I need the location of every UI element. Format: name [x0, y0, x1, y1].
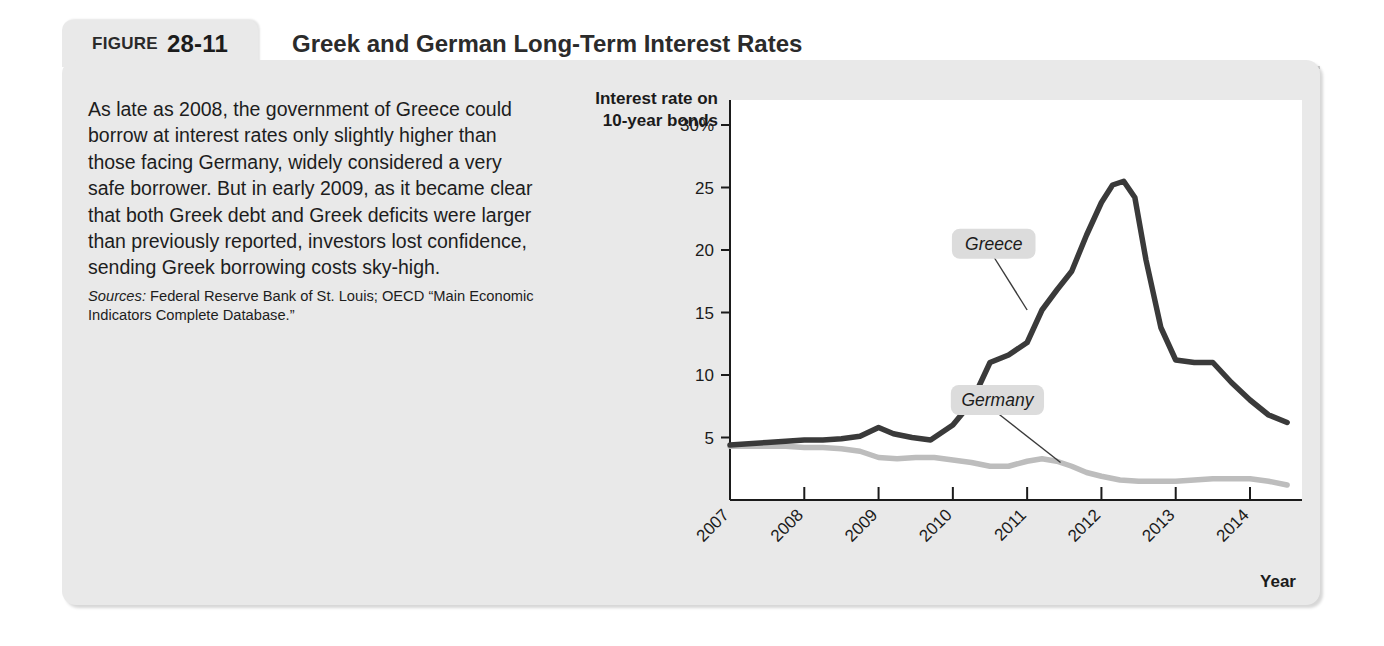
y-axis-tick-label: 20: [695, 241, 714, 260]
x-axis-tick-label: 2007: [693, 505, 733, 545]
description-paragraph: As late as 2008, the government of Greec…: [88, 96, 540, 281]
line-chart: 30%2520151052007200820092010201120122013…: [540, 88, 1320, 598]
sources-note: Sources: Federal Reserve Bank of St. Lou…: [88, 287, 540, 326]
sources-text: Federal Reserve Bank of St. Louis; OECD …: [88, 288, 534, 324]
chart-container: Interest rate on10-year bonds 30%2520151…: [540, 88, 1320, 598]
x-axis-tick-label: 2013: [1138, 505, 1178, 545]
sources-label: Sources:: [88, 288, 146, 304]
figure-number: 28-11: [167, 30, 228, 58]
x-axis-label: Year: [1260, 572, 1296, 592]
description-column: As late as 2008, the government of Greec…: [88, 96, 540, 326]
figure-title: Greek and German Long-Term Interest Rate…: [292, 24, 802, 64]
figure-root: FIGURE 28-11 Greek and German Long-Term …: [0, 0, 1384, 646]
callout-label-greece: Greece: [965, 234, 1023, 254]
y-axis-tick-label: 30%: [680, 116, 714, 135]
callout-label-germany: Germany: [961, 390, 1034, 410]
x-axis-tick-label: 2009: [841, 505, 881, 545]
y-axis-tick-label: 5: [705, 429, 714, 448]
x-axis-tick-label: 2011: [991, 505, 1030, 544]
y-axis-tick-label: 25: [695, 179, 714, 198]
x-axis-tick-label: 2010: [916, 505, 956, 545]
y-axis-tick-label: 15: [695, 304, 714, 323]
x-axis-tick-label: 2014: [1213, 505, 1253, 545]
figure-label-word: FIGURE: [92, 34, 158, 54]
x-axis-tick-label: 2012: [1064, 505, 1104, 545]
x-axis-tick-label: 2008: [767, 505, 807, 545]
y-axis-tick-label: 10: [695, 366, 714, 385]
